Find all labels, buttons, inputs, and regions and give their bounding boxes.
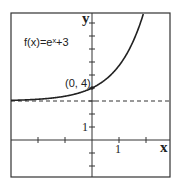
y-tick-label-1: 1: [82, 120, 88, 135]
function-label: f(x)=eˣ+3: [24, 36, 69, 48]
graph-canvas: [0, 0, 181, 181]
intercept-point: [90, 86, 94, 90]
y-axis-label: y: [82, 10, 90, 27]
point-label: (0, 4): [65, 77, 91, 89]
x-tick-label-1: 1: [115, 142, 121, 157]
x-axis-label: x: [160, 139, 168, 156]
